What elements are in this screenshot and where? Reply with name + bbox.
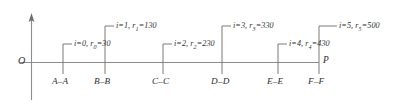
callout-label-4: i=4, r4=430 [289,40,330,50]
figure-canvas: O P i=0, r0=30 i=1, r1=130 i=2, r2=230 i… [0,0,401,111]
vertical-axis [29,13,35,100]
callout-label-2: i=2, r2=230 [174,40,215,50]
callout-radius-value-0: =30 [97,39,111,48]
section-label-e-e: E–E [267,77,283,86]
section-label-c-c: C–C [152,77,169,86]
diagram-vector-layer [0,0,401,111]
section-label-a-a: A–A [52,77,68,86]
callout-radius-value-4: =430 [312,39,330,48]
callout-radius-value-3: =330 [256,21,274,30]
callout-index-2: i=2 [174,39,186,48]
callout-radius-value-2: =230 [197,39,215,48]
callout-index-5: i=5 [339,21,351,30]
origin-label: O [18,56,25,66]
callout-index-3: i=3 [233,21,245,30]
section-label-f-f: F–F [308,77,324,86]
callout-radius-value-5: =500 [362,21,380,30]
end-point-label: P [323,56,329,65]
callout-label-0: i=0, r0=30 [74,40,111,50]
callout-index-1: i=1 [116,21,128,30]
callout-label-5: i=5, r5=500 [339,22,380,32]
section-label-d-d: D–D [211,77,229,86]
section-label-b-b: B–B [94,77,110,86]
callout-radius-value-1: =130 [139,21,157,30]
station-tick-group [63,26,319,74]
callout-label-1: i=1, r1=130 [116,22,157,32]
callout-label-3: i=3, r3=330 [233,22,274,32]
callout-index-4: i=4 [289,39,301,48]
callout-index-0: i=0 [74,39,86,48]
